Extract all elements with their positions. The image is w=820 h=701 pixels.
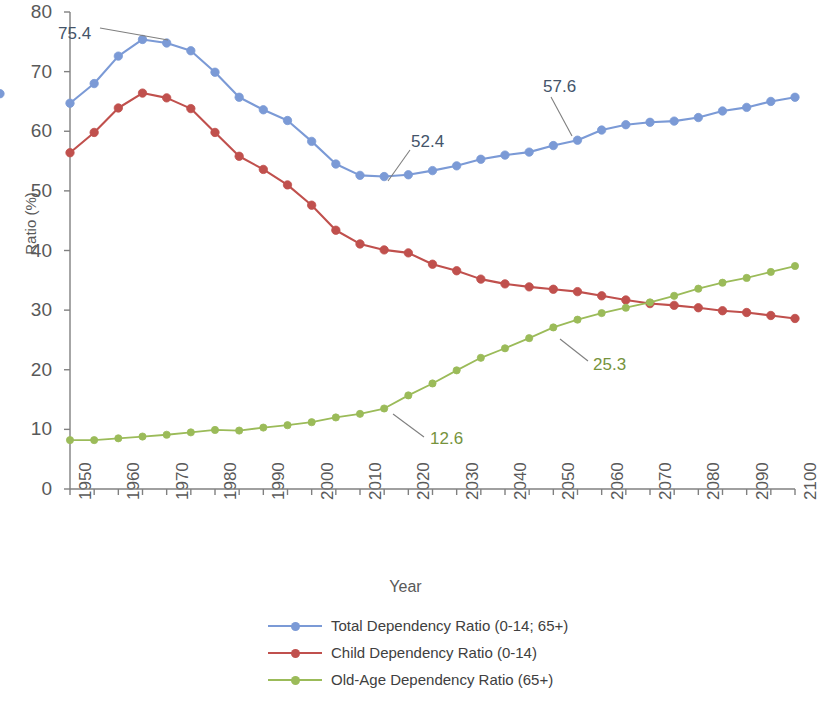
data-point [550,324,557,331]
data-point [742,308,750,316]
data-point [187,429,194,436]
series-1 [66,89,799,323]
data-point [211,426,218,433]
data-point [694,304,702,312]
annotation-leader-line [560,339,588,361]
data-point [332,414,339,421]
data-point [622,304,629,311]
data-point [114,104,122,112]
data-point [429,380,436,387]
annotation-57.6: 57.6 [543,78,576,95]
data-point [66,99,74,107]
data-point [114,52,122,60]
data-point [138,89,146,97]
legend-label-0: Total Dependency Ratio (0-14; 65+) [331,617,568,634]
data-point [743,274,750,281]
data-point [670,117,678,125]
legend-item-0[interactable]: Total Dependency Ratio (0-14; 65+) [0,612,811,639]
data-point [115,435,122,442]
data-point [283,116,291,124]
legend-marker-icon [291,649,300,658]
series-2 [66,262,798,443]
data-point [187,104,195,112]
data-point [526,335,533,342]
data-point [332,226,340,234]
data-point [0,89,4,97]
annotation-leader-line [393,414,424,437]
data-point [597,126,605,134]
data-point [646,299,653,306]
data-point [404,171,412,179]
data-point [719,279,726,286]
data-point [477,354,484,361]
data-point [428,166,436,174]
data-point [501,280,509,288]
data-point [405,392,412,399]
data-point [404,249,412,257]
data-point [597,292,605,300]
data-point [356,410,363,417]
data-point [453,367,460,374]
data-point [66,437,73,444]
data-point [573,287,581,295]
data-point [525,283,533,291]
data-point [90,128,98,136]
data-point [90,79,98,87]
data-point [139,433,146,440]
data-point [501,345,508,352]
data-point [211,68,219,76]
data-point [791,314,799,322]
data-point [573,136,581,144]
data-point [694,113,702,121]
legend-label-2: Old-Age Dependency Ratio (65+) [331,671,553,688]
data-point [549,141,557,149]
data-point [452,162,460,170]
legend-swatch-1 [268,646,322,660]
data-point [381,405,388,412]
data-point [549,285,557,293]
data-point [283,181,291,189]
data-point [767,311,775,319]
data-point [356,171,364,179]
data-point [695,285,702,292]
annotation-leader-line [551,97,572,136]
data-point [477,275,485,283]
data-point [574,316,581,323]
x-axis-title: Year [0,578,811,596]
series-line-1 [70,93,795,318]
data-point [791,262,798,269]
data-point [622,296,630,304]
data-point [380,246,388,254]
legend-item-2[interactable]: Old-Age Dependency Ratio (65+) [0,666,811,693]
data-point [284,422,291,429]
data-point [235,152,243,160]
annotation-leader-line [100,28,168,40]
series-line-2 [70,266,795,440]
legend-swatch-2 [268,673,322,687]
data-point [525,148,533,156]
data-point [477,155,485,163]
data-point [767,97,775,105]
legend-label-1: Child Dependency Ratio (0-14) [331,644,537,661]
data-point [211,128,219,136]
annotation-75.4: 75.4 [58,25,91,42]
data-point [307,137,315,145]
data-point [66,149,74,157]
data-point [428,260,436,268]
annotation-12.6: 12.6 [430,430,463,447]
legend-swatch-0 [268,619,322,633]
annotation-52.4: 52.4 [411,133,444,150]
data-point [718,107,726,115]
data-point [671,292,678,299]
data-point [308,419,315,426]
data-point [501,151,509,159]
legend-marker-icon [291,676,300,685]
data-point [718,307,726,315]
data-point [163,431,170,438]
legend-item-1[interactable]: Child Dependency Ratio (0-14) [0,639,811,666]
data-point [598,310,605,317]
data-point [259,165,267,173]
data-point [260,424,267,431]
data-point [259,106,267,114]
